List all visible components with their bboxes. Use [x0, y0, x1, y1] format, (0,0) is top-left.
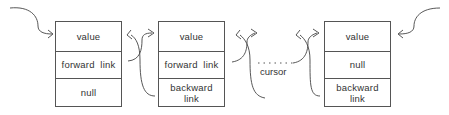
- list-node-last: value null backward link: [324, 21, 391, 107]
- node-forward-null-cell: null: [325, 51, 390, 79]
- node-value-cell: value: [159, 22, 224, 52]
- list-node-first: value forward link null: [55, 21, 122, 107]
- node-backward-link-cell: backward link: [325, 78, 390, 107]
- node-backward-link-cell: backward link: [159, 78, 224, 107]
- node-forward-link-cell: forward link: [56, 51, 121, 79]
- cursor-label: cursor: [260, 66, 286, 77]
- list-node-middle: value forward link backward link: [158, 21, 225, 107]
- node-forward-link-cell: forward link: [159, 51, 224, 79]
- node-value-cell: value: [56, 22, 121, 52]
- node-value-cell: value: [325, 22, 390, 52]
- node-backward-null-cell: null: [56, 78, 121, 107]
